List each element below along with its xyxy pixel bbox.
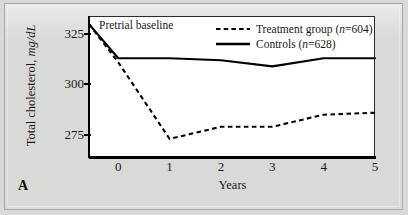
panel-label-a: A	[18, 178, 29, 194]
figure-panel-a: 325300275 012345 Total cholesterol, mg/d…	[0, 0, 408, 215]
chart-lines	[0, 0, 408, 215]
series-line-controls	[89, 24, 375, 66]
series-line-treatment	[89, 24, 375, 139]
